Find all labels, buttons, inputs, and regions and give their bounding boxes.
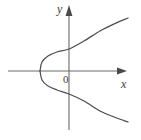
x-axis-label: x — [121, 78, 126, 90]
y-axis-label: y — [57, 3, 62, 15]
parabola-figure: y x 0 — [0, 0, 141, 140]
parabola-lower-branch — [40, 71, 128, 122]
figure-canvas — [0, 0, 141, 140]
x-axis-arrow-icon — [117, 67, 127, 74]
parabola-upper-branch — [40, 18, 128, 71]
y-axis-arrow-icon — [66, 5, 73, 16]
origin-label: 0 — [63, 74, 69, 85]
